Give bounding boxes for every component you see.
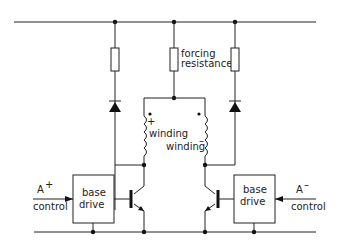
left-diode-icon <box>109 101 121 112</box>
left-winding: + winding <box>142 98 188 167</box>
svg-text:control: control <box>291 201 326 212</box>
svg-text:drive: drive <box>79 199 104 210</box>
svg-text:–: – <box>304 179 309 190</box>
forcing-resistance-branch: forcing resistance <box>144 20 232 100</box>
right-clamp-branch <box>205 20 241 165</box>
left-resistor <box>111 48 119 71</box>
right-resistor <box>231 48 239 71</box>
a-minus-control-input: A – control <box>275 179 326 212</box>
right-diode-icon <box>229 101 241 112</box>
svg-text:A: A <box>296 184 303 195</box>
svg-text:+: + <box>45 179 53 190</box>
circuit-diagram: forcing resistance + winding winding – <box>0 0 342 248</box>
svg-text:base: base <box>243 184 267 195</box>
right-base-drive-block: base drive <box>234 175 275 234</box>
winding-plus-label: winding <box>149 128 188 139</box>
a-plus-control-input: A + control <box>33 179 73 212</box>
svg-text:A: A <box>37 184 44 195</box>
right-transistor-icon <box>203 165 234 234</box>
forcing-resistor <box>170 48 178 71</box>
svg-text:drive: drive <box>240 196 265 207</box>
winding-minus-sign: – <box>199 135 204 146</box>
arrow-left-icon <box>275 196 283 202</box>
left-transistor-icon <box>114 165 146 234</box>
svg-text:control: control <box>33 201 68 212</box>
resistance-label: resistance <box>181 58 232 69</box>
winding-plus-sign: + <box>147 116 155 127</box>
left-base-drive-block: base drive <box>73 175 114 234</box>
svg-text:base: base <box>82 187 106 198</box>
